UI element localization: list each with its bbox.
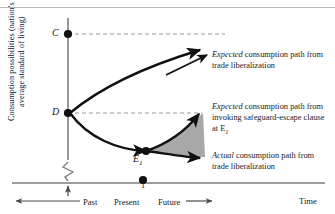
point-label-c: C [52,27,59,39]
point-c [64,30,72,38]
annotation-2-emphasis: Expected [212,102,243,111]
x-axis-tick-label-1: 1 [141,181,145,190]
annotation-1-emphasis: Expected [212,50,243,59]
x-axis-label-past: Past [83,197,97,207]
x-axis-label-time: Time [299,196,317,206]
y-axis-break-icon [63,162,73,181]
annotation-3-emphasis: Actual [212,151,234,160]
annotation-expected-safeguard-escape: Expected consumption path from invoking … [212,101,332,137]
y-axis-label: Consumption possibilities (nation's aver… [7,0,26,126]
curve-expected-trade-liberalization [70,50,200,113]
curve-actual-trade-liberalization [70,113,146,151]
point-label-e1: E1 [133,153,143,167]
economics-consumption-path-figure: Consumption possibilities (nation's aver… [0,0,335,214]
annotation-2-subscript: 1 [225,128,228,135]
annotation-expected-trade-liberalization: Expected consumption path from trade lib… [212,49,332,71]
point-e1 [142,147,150,155]
point-d [64,109,72,117]
point-label-e1-subscript: 1 [139,159,143,167]
x-axis-label-future: Future [158,197,180,207]
point-label-d: D [52,106,59,118]
annotation-actual-trade-liberalization: Actual consumption path from trade liber… [212,150,332,172]
x-axis-label-present: Present [114,197,139,207]
